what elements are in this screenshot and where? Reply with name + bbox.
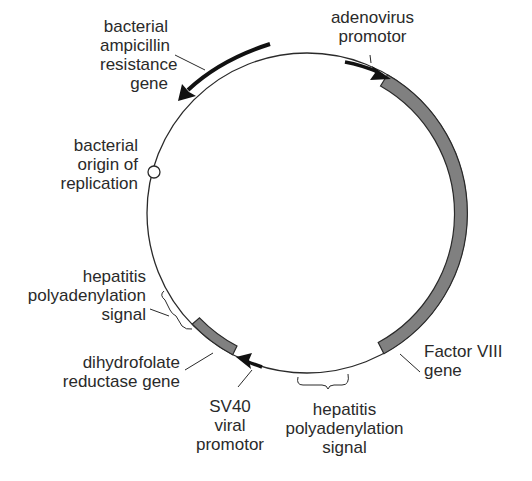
label-line: signal bbox=[5, 305, 146, 324]
ampicillin-leader bbox=[175, 55, 205, 70]
hep-polya-left-bracket bbox=[162, 291, 192, 329]
label-line: bacterial bbox=[100, 17, 168, 36]
adenovirus-leader bbox=[370, 55, 371, 63]
label-line: SV40 bbox=[190, 397, 270, 416]
label-ampicillin-resistance-gene: bacterial ampicillin resistance gene bbox=[100, 17, 168, 93]
label-line: promotor bbox=[190, 435, 270, 454]
sv40-leader bbox=[238, 370, 252, 387]
adenovirus-arrowhead-icon bbox=[370, 66, 391, 80]
label-line: signal bbox=[272, 438, 417, 457]
label-line: dihydrofolate bbox=[40, 353, 180, 372]
label-origin-of-replication: bacterial origin of replication bbox=[40, 136, 138, 193]
label-line: ampicillin bbox=[100, 36, 168, 55]
label-line: hepatitis bbox=[5, 267, 146, 286]
hep-polya-bottom-bracket bbox=[298, 374, 349, 389]
label-line: bacterial bbox=[40, 136, 138, 155]
label-dhfr-gene: dihydrofolate reductase gene bbox=[40, 353, 180, 391]
label-factor-viii-gene: Factor VIII gene bbox=[424, 342, 524, 380]
label-hepatitis-polya-bottom: hepatitis polyadenylation signal bbox=[272, 400, 417, 457]
label-line: origin of bbox=[40, 155, 138, 174]
label-line: resistance bbox=[100, 55, 168, 74]
label-line: promotor bbox=[320, 27, 425, 46]
ampicillin-resistance-arrow bbox=[188, 44, 270, 90]
hep-polya-left-leader bbox=[150, 309, 169, 316]
label-line: polyadenylation bbox=[272, 419, 417, 438]
dhfr-leader bbox=[185, 353, 213, 370]
label-hepatitis-polya-left: hepatitis polyadenylation signal bbox=[5, 267, 146, 324]
label-line: reductase gene bbox=[40, 372, 180, 391]
factor-viii-gene-segment bbox=[378, 75, 467, 354]
label-line: viral bbox=[190, 416, 270, 435]
label-line: adenovirus bbox=[320, 8, 425, 27]
label-sv40-promotor: SV40 viral promotor bbox=[190, 397, 270, 454]
label-line: gene bbox=[424, 361, 524, 380]
origin-of-replication-marker bbox=[148, 166, 160, 178]
dhfr-gene-segment bbox=[192, 318, 237, 355]
label-line: polyadenylation bbox=[5, 286, 146, 305]
label-line: gene bbox=[100, 74, 168, 93]
label-line: hepatitis bbox=[272, 400, 417, 419]
label-line: Factor VIII bbox=[424, 342, 524, 361]
label-adenovirus-promotor: adenovirus promotor bbox=[320, 8, 425, 46]
factor-viii-leader bbox=[400, 354, 420, 372]
label-line: replication bbox=[40, 174, 138, 193]
